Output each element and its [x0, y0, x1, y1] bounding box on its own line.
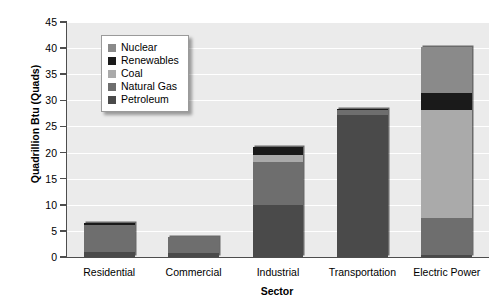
- x-axis-tick-label: Industrial: [257, 266, 300, 278]
- y-axis-tick: [60, 126, 67, 128]
- y-axis-tick: [60, 21, 67, 23]
- bar-segment-petroleum[interactable]: [337, 115, 388, 257]
- legend-item[interactable]: Renewables: [108, 54, 179, 67]
- y-axis-tick-label: 45: [45, 16, 57, 28]
- x-axis-tick-label: Transportation: [329, 266, 396, 278]
- bar-segment-natural-gas[interactable]: [253, 162, 304, 205]
- y-axis-tick: [60, 73, 67, 75]
- legend-swatch-icon: [108, 96, 116, 104]
- bar-segment-natural-gas[interactable]: [168, 237, 219, 253]
- legend-item-label: Coal: [121, 67, 143, 80]
- y-axis-title: Quadrillion Btu (Quads): [29, 34, 41, 214]
- y-axis-tick: [60, 204, 67, 206]
- y-axis-tick-label: 25: [45, 120, 57, 132]
- legend-swatch-icon: [108, 57, 116, 65]
- bar-segment-renewables[interactable]: [421, 93, 472, 110]
- bar-segment-petroleum[interactable]: [421, 255, 472, 257]
- legend-swatch-icon: [108, 83, 116, 91]
- bar-segment-natural-gas[interactable]: [421, 218, 472, 255]
- bar-group[interactable]: Transportation: [337, 22, 388, 257]
- legend-item-label: Petroleum: [121, 93, 169, 106]
- x-axis-title: Sector: [66, 285, 488, 297]
- chart-legend: NuclearRenewablesCoalNatural GasPetroleu…: [101, 35, 189, 112]
- legend-swatch-icon: [108, 70, 116, 78]
- y-axis-tick-label: 5: [51, 225, 57, 237]
- y-axis-tick: [60, 47, 67, 49]
- legend-item-label: Renewables: [121, 54, 179, 67]
- x-axis-tick-label: Residential: [83, 266, 135, 278]
- y-axis-tick-label: 15: [45, 173, 57, 185]
- bar-segment-natural-gas[interactable]: [337, 110, 388, 115]
- y-axis-tick-label: 0: [51, 251, 57, 263]
- y-axis-tick: [60, 100, 67, 102]
- bar-segment-natural-gas[interactable]: [84, 225, 135, 252]
- stacked-bar-chart: Quadrillion Btu (Quads) 0510152025303540…: [0, 0, 500, 306]
- bar-segment-petroleum[interactable]: [168, 253, 219, 257]
- y-axis-tick-label: 35: [45, 68, 57, 80]
- x-axis-tick-label: Electric Power: [413, 266, 480, 278]
- x-axis-tick-label: Commercial: [166, 266, 222, 278]
- legend-item[interactable]: Coal: [108, 67, 179, 80]
- legend-item[interactable]: Nuclear: [108, 41, 179, 54]
- legend-item[interactable]: Natural Gas: [108, 80, 179, 93]
- bar-stack[interactable]: [84, 223, 135, 257]
- bar-segment-renewables[interactable]: [253, 147, 304, 155]
- bar-segment-renewables[interactable]: [84, 223, 135, 225]
- y-axis-tick-label: 20: [45, 147, 57, 159]
- bar-stack[interactable]: [253, 147, 304, 257]
- bar-segment-petroleum[interactable]: [84, 252, 135, 257]
- bar-segment-coal[interactable]: [253, 155, 304, 162]
- y-axis-tick: [60, 230, 67, 232]
- bar-stack[interactable]: [337, 109, 388, 257]
- legend-item[interactable]: Petroleum: [108, 93, 179, 106]
- y-axis-tick: [60, 178, 67, 180]
- bar-group[interactable]: Electric Power: [421, 22, 472, 257]
- bar-stack[interactable]: [168, 237, 219, 257]
- bar-segment-coal[interactable]: [421, 110, 472, 219]
- bar-segment-nuclear[interactable]: [421, 47, 472, 93]
- bar-segment-renewables[interactable]: [337, 109, 388, 111]
- bar-stack[interactable]: [421, 47, 472, 257]
- bar-group[interactable]: Industrial: [253, 22, 304, 257]
- legend-swatch-icon: [108, 44, 116, 52]
- bar-segment-petroleum[interactable]: [253, 205, 304, 257]
- y-axis-tick-label: 40: [45, 42, 57, 54]
- y-axis-tick: [60, 152, 67, 154]
- y-axis-tick: [60, 256, 67, 258]
- y-axis-tick-label: 30: [45, 94, 57, 106]
- legend-item-label: Natural Gas: [121, 80, 177, 93]
- legend-item-label: Nuclear: [121, 41, 157, 54]
- y-axis-tick-label: 10: [45, 199, 57, 211]
